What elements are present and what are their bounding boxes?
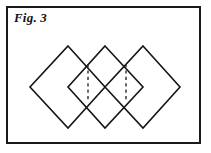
figure-drawing-canvas xyxy=(0,0,211,153)
figure-container: Fig. 3 xyxy=(0,0,211,153)
